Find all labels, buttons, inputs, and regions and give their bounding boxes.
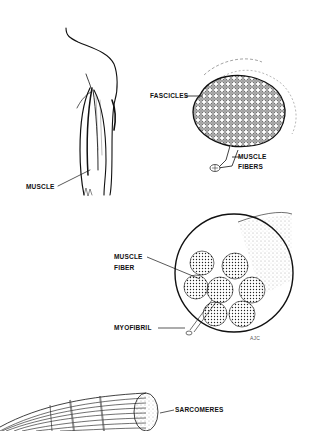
muscle-fiber-label-line2: FIBER — [114, 264, 135, 272]
muscle-structure-diagram: MUSCLE FASCICLES MUSCLE FIBERS MUSCLE FI… — [0, 0, 310, 431]
arm-muscle-illustration — [58, 28, 117, 196]
muscle-fibers-label-line1: MUSCLE — [238, 153, 267, 161]
muscle-fibers-label-line2: FIBERS — [238, 163, 263, 171]
sarcomeres-label: SARCOMERES — [175, 406, 224, 414]
magnified-fiber-illustration — [147, 212, 293, 335]
myofibril-illustration — [0, 393, 174, 431]
diagram-artwork — [0, 0, 310, 431]
fascicles-label: FASCICLES — [150, 92, 188, 100]
myofibril-label: MYOFIBRIL — [114, 324, 152, 332]
artist-signature: AJC — [250, 334, 260, 342]
muscle-fiber-label-line1: MUSCLE — [114, 253, 143, 261]
muscle-label: MUSCLE — [26, 183, 55, 191]
